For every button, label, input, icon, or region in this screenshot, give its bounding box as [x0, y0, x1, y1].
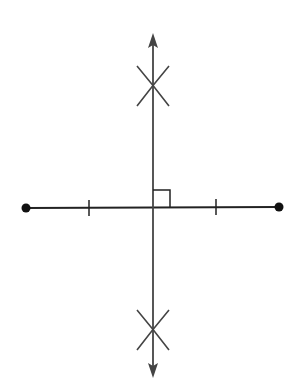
right-angle-marker-icon [153, 190, 170, 207]
endpoint-right-dot [275, 203, 284, 212]
endpoint-left-dot [22, 204, 31, 213]
perpendicular-bisector-diagram [0, 0, 299, 382]
diagram-canvas [0, 0, 299, 382]
